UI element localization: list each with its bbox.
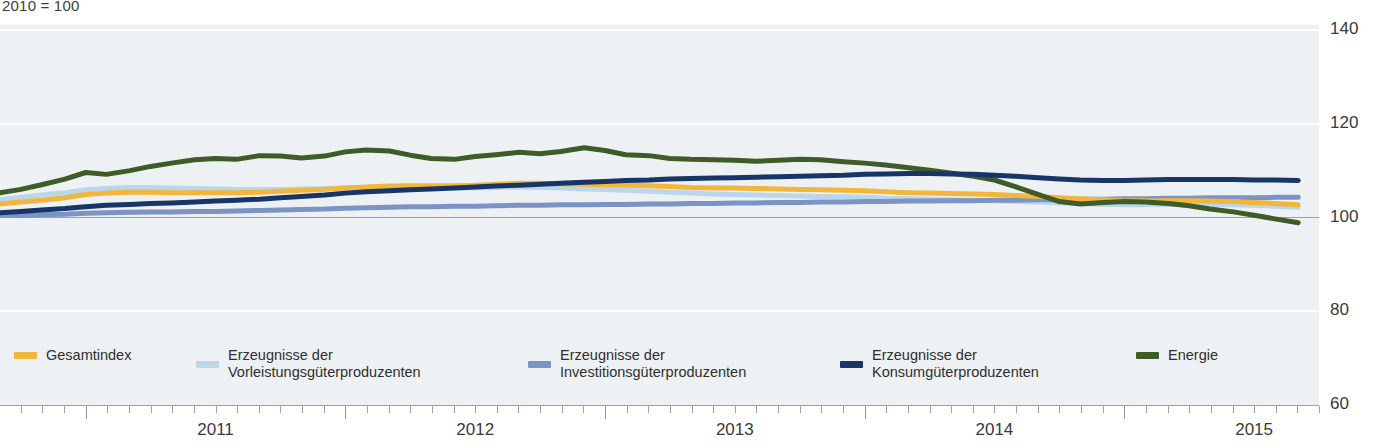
series-lines — [0, 148, 1298, 223]
x-axis-minor-tick — [410, 406, 411, 413]
x-axis-minor-tick — [886, 406, 887, 413]
x-axis-minor-tick — [21, 406, 22, 413]
legend-swatch-icon — [1136, 352, 1159, 359]
x-axis-minor-tick — [172, 406, 173, 413]
x-axis: 20112012201320142015 — [0, 405, 1319, 448]
x-axis-label-2011: 2011 — [197, 420, 234, 440]
legend-swatch-icon — [528, 361, 551, 368]
x-axis-minor-tick — [713, 406, 714, 413]
x-axis-minor-tick — [1189, 406, 1190, 413]
x-axis-minor-tick — [540, 406, 541, 413]
x-axis-minor-tick — [908, 406, 909, 413]
x-axis-minor-tick — [1297, 406, 1298, 413]
x-axis-minor-tick — [800, 406, 801, 413]
index-base-note: 2010 = 100 — [2, 0, 80, 14]
x-axis-minor-tick — [843, 406, 844, 413]
x-axis-minor-tick — [670, 406, 671, 413]
x-axis-major-tick — [86, 406, 87, 419]
x-axis-minor-tick — [735, 406, 736, 413]
x-axis-minor-tick — [1081, 406, 1082, 413]
x-axis-major-tick — [1124, 406, 1125, 419]
x-axis-label-2014: 2014 — [975, 420, 1013, 440]
x-axis-minor-tick — [194, 406, 195, 413]
y-axis-tick-140: 140 — [1330, 19, 1378, 39]
x-axis-minor-tick — [64, 406, 65, 413]
x-axis-minor-tick — [1168, 406, 1169, 413]
x-axis-minor-tick — [756, 406, 757, 413]
y-axis-tick-80: 80 — [1330, 300, 1378, 320]
x-axis-major-tick — [865, 406, 866, 419]
x-axis-minor-tick — [367, 406, 368, 413]
x-axis-minor-tick — [1146, 406, 1147, 413]
y-axis-tick-120: 120 — [1330, 113, 1378, 133]
x-axis-minor-tick — [930, 406, 931, 413]
legend-item-1[interactable]: Erzeugnisse der Vorleistungsgüterproduze… — [196, 347, 421, 381]
x-axis-minor-tick — [280, 406, 281, 413]
y-axis-tick-100: 100 — [1330, 207, 1378, 227]
legend-item-0[interactable]: Gesamtindex — [14, 347, 131, 364]
x-axis-minor-tick — [1038, 406, 1039, 413]
x-axis-minor-tick — [562, 406, 563, 413]
x-axis-major-tick — [605, 406, 606, 419]
producer-price-index-chart: 2010 = 100 1401201008060 201120122013201… — [0, 0, 1381, 448]
legend-label: Gesamtindex — [46, 347, 131, 364]
y-axis: 1401201008060 — [1330, 0, 1381, 448]
x-axis-minor-tick — [475, 406, 476, 413]
x-axis-label-2012: 2012 — [456, 420, 494, 440]
x-axis-minor-tick — [497, 406, 498, 413]
x-axis-minor-tick — [778, 406, 779, 413]
x-axis-minor-tick — [237, 406, 238, 413]
y-axis-tick-60: 60 — [1330, 394, 1378, 414]
x-axis-minor-tick — [216, 406, 217, 413]
x-axis-minor-tick — [432, 406, 433, 413]
x-axis-minor-tick — [324, 406, 325, 413]
x-axis-minor-tick — [1319, 406, 1320, 413]
x-axis-minor-tick — [1276, 406, 1277, 413]
x-axis-minor-tick — [583, 406, 584, 413]
chart-legend: GesamtindexErzeugnisse der Vorleistungsg… — [0, 333, 1319, 385]
x-axis-minor-tick — [1103, 406, 1104, 413]
x-axis-minor-tick — [259, 406, 260, 413]
legend-item-4[interactable]: Energie — [1136, 347, 1218, 364]
x-axis-minor-tick — [973, 406, 974, 413]
x-axis-minor-tick — [1233, 406, 1234, 413]
x-axis-minor-tick — [42, 406, 43, 413]
x-axis-minor-tick — [1254, 406, 1255, 413]
x-axis-minor-tick — [389, 406, 390, 413]
legend-label: Erzeugnisse der Vorleistungsgüterproduze… — [228, 347, 421, 381]
legend-swatch-icon — [14, 352, 37, 359]
x-axis-minor-tick — [994, 406, 995, 413]
x-axis-minor-tick — [627, 406, 628, 413]
x-axis-minor-tick — [1211, 406, 1212, 413]
legend-label: Energie — [1168, 347, 1218, 364]
x-axis-minor-tick — [1059, 406, 1060, 413]
gridlines — [0, 30, 1319, 311]
x-axis-major-tick — [345, 406, 346, 419]
x-axis-minor-tick — [129, 406, 130, 413]
x-axis-minor-tick — [692, 406, 693, 413]
legend-swatch-icon — [840, 361, 863, 368]
x-axis-minor-tick — [107, 406, 108, 413]
x-axis-label-2015: 2015 — [1235, 420, 1273, 440]
x-axis-minor-tick — [151, 406, 152, 413]
x-axis-minor-tick — [454, 406, 455, 413]
x-axis-minor-tick — [1016, 406, 1017, 413]
x-axis-minor-tick — [302, 406, 303, 413]
legend-item-2[interactable]: Erzeugnisse der Investitionsgüterproduze… — [528, 347, 746, 381]
x-axis-label-2013: 2013 — [716, 420, 754, 440]
x-axis-minor-tick — [821, 406, 822, 413]
legend-label: Erzeugnisse der Investitionsgüterproduze… — [560, 347, 746, 381]
x-axis-minor-tick — [951, 406, 952, 413]
legend-swatch-icon — [196, 361, 219, 368]
legend-label: Erzeugnisse der Konsumgüterproduzenten — [872, 347, 1039, 381]
legend-item-3[interactable]: Erzeugnisse der Konsumgüterproduzenten — [840, 347, 1039, 381]
x-axis-minor-tick — [518, 406, 519, 413]
x-axis-minor-tick — [648, 406, 649, 413]
x-axis-line — [0, 405, 1319, 406]
